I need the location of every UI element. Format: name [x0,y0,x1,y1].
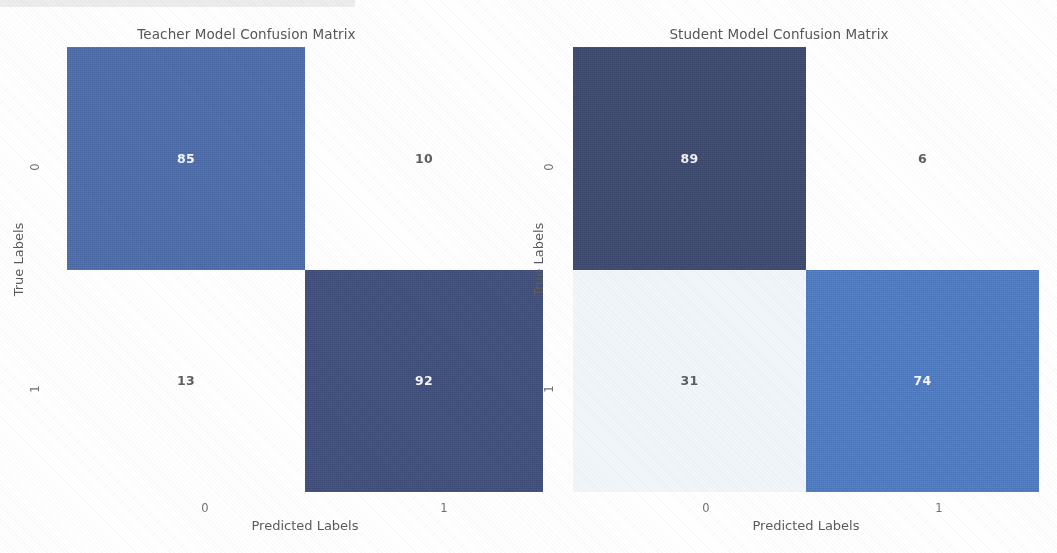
heatmap-student: 89 6 31 74 [573,47,1039,492]
x-axis-tick-1: 1 [919,501,959,515]
x-axis-label: Predicted Labels [676,518,936,533]
x-axis-label: Predicted Labels [175,518,435,533]
page-title: Teacher Model Confusion Matrix [0,26,511,42]
x-axis-tick-1: 1 [424,501,464,515]
cell-value: 31 [681,373,699,388]
heatmap-cell[interactable]: 10 [305,47,543,270]
heatmap-teacher: 85 10 13 92 [67,47,543,492]
cell-value: 89 [681,151,699,166]
cell-value: 6 [918,151,927,166]
heatmap-cell[interactable]: 89 [573,47,806,270]
y-axis-tick-0: 0 [28,155,42,179]
confusion-matrix-figure: Teacher Model Confusion Matrix 85 10 13 … [0,0,1057,553]
x-axis-tick-0: 0 [686,501,726,515]
cell-value: 74 [914,373,932,388]
heatmap-cell[interactable]: 92 [305,270,543,493]
cell-value: 13 [177,373,195,388]
y-axis-tick-1: 1 [28,377,42,401]
panel-student-model: Student Model Confusion Matrix 89 6 31 7… [529,0,1057,553]
x-axis-tick-0: 0 [185,501,225,515]
cell-value: 10 [415,151,433,166]
cell-value: 85 [177,151,195,166]
page-title: Student Model Confusion Matrix [515,26,1043,42]
heatmap-cell[interactable]: 13 [67,270,305,493]
cell-value: 92 [415,373,433,388]
y-axis-tick-0: 0 [542,155,556,179]
heatmap-cell[interactable]: 74 [806,270,1039,493]
heatmap-cell[interactable]: 6 [806,47,1039,270]
y-axis-label: True Labels [11,215,26,305]
heatmap-cell[interactable]: 31 [573,270,806,493]
y-axis-tick-1: 1 [542,377,556,401]
panel-teacher-model: Teacher Model Confusion Matrix 85 10 13 … [0,0,529,553]
heatmap-cell[interactable]: 85 [67,47,305,270]
y-axis-label: True Labels [531,215,546,305]
